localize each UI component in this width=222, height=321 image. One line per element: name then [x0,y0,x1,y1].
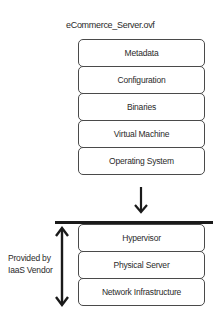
down-arrow-icon [135,187,147,212]
layer-physical-server: Physical Server [78,251,205,279]
double-headed-arrow-icon [56,228,68,305]
provided-by-line2: IaaS Vendor [8,264,53,276]
provided-by-line1: Provided by [8,252,53,264]
iaas-vendor-stack: Hypervisor Physical Server Network Infra… [78,224,205,306]
provided-by-label: Provided by IaaS Vendor [8,252,53,276]
layer-network-infrastructure: Network Infrastructure [78,278,205,306]
layer-hypervisor: Hypervisor [78,224,205,252]
